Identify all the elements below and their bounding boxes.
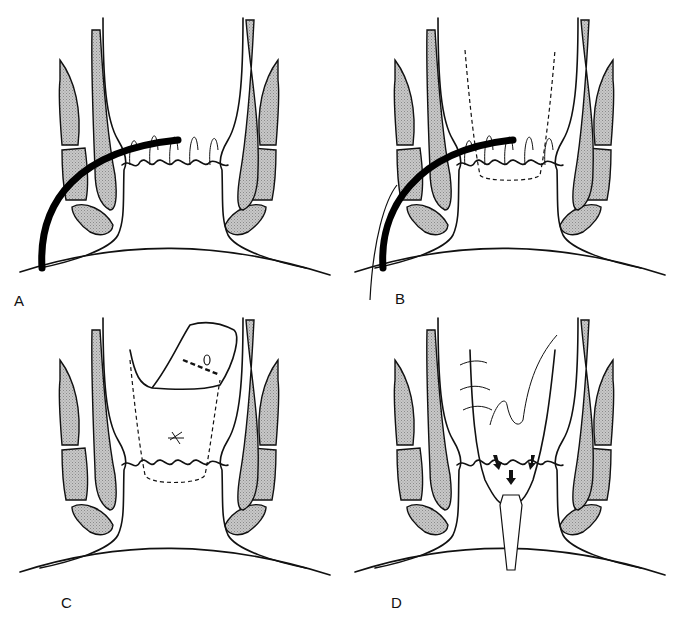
panel-label-b: B — [395, 290, 405, 307]
panel-label-d: D — [391, 594, 402, 611]
sutures — [460, 361, 492, 410]
mucosal-flap — [130, 323, 237, 390]
panel-label-a: A — [14, 292, 24, 309]
suture — [168, 432, 184, 444]
panel-label-c: C — [61, 594, 72, 611]
panel-d — [355, 318, 665, 575]
diagram-canvas — [0, 0, 675, 622]
excision-outline — [130, 360, 220, 483]
drain-tube — [500, 495, 522, 570]
panel-a — [20, 18, 330, 275]
panel-c — [20, 318, 330, 575]
panel-b — [355, 18, 665, 300]
